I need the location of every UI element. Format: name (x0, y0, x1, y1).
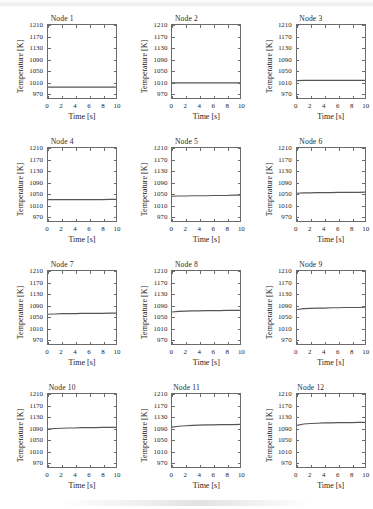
y-tick-label: 1130 (154, 167, 168, 174)
y-tick-label: 1210 (154, 144, 168, 151)
y-tick-label: 970 (157, 90, 167, 97)
x-tick-group: 0246810 (47, 346, 117, 358)
y-tick-group: 970101010501090113011701210 (140, 393, 169, 468)
panel-title: Node 9 (249, 260, 373, 269)
y-tick-label: 1090 (154, 301, 168, 308)
x-tick-label: 4 (198, 102, 201, 109)
x-tick-label: 10 (362, 102, 369, 109)
y-tick-group: 970101010501090113011701210 (140, 24, 169, 99)
y-tick-label: 1210 (29, 390, 43, 397)
temperature-series (297, 148, 365, 221)
y-tick-label: 1130 (154, 44, 168, 51)
series-path (172, 195, 240, 196)
y-tick-label: 1210 (154, 390, 168, 397)
x-tick-label: 0 (45, 348, 48, 355)
subplot-panel: Node 7Temperature [K]Time [s]97010101050… (0, 258, 124, 381)
x-axis-label: Time [s] (171, 481, 241, 490)
panel-title: Node 7 (0, 260, 124, 269)
y-tick-label: 1170 (29, 401, 43, 408)
x-tick-label: 2 (59, 102, 62, 109)
panel-title: Node 6 (249, 137, 373, 146)
y-tick-label: 1010 (154, 324, 168, 331)
y-tick-label: 1050 (29, 313, 43, 320)
subplot-panel: Node 4Temperature [K]Time [s]97010101050… (0, 135, 124, 258)
y-tick-label: 1010 (154, 201, 168, 208)
x-tick-label: 2 (308, 225, 311, 232)
y-tick-group: 970101010501090113011701210 (16, 24, 45, 99)
x-tick-label: 2 (308, 348, 311, 355)
x-tick-label: 2 (184, 102, 187, 109)
y-tick-label: 970 (281, 90, 291, 97)
x-tick-group: 0246810 (171, 100, 241, 112)
x-tick-label: 6 (212, 225, 215, 232)
x-tick-label: 8 (226, 102, 229, 109)
y-tick-label: 1050 (278, 436, 292, 443)
y-tick-label: 1010 (278, 324, 292, 331)
x-tick-label: 4 (73, 102, 76, 109)
y-tick-label: 1170 (29, 155, 43, 162)
y-tick-label: 1130 (154, 413, 168, 420)
x-tick-label: 6 (212, 471, 215, 478)
panel-title: Node 8 (124, 260, 248, 269)
x-tick-label: 6 (87, 348, 90, 355)
x-tick-label: 6 (336, 471, 339, 478)
subplot-panel: Node 1Temperature [K]Time [s]97010101050… (0, 12, 124, 135)
plot-axes (171, 270, 241, 345)
y-tick-group: 970101010501090113011701210 (16, 393, 45, 468)
temperature-series (48, 271, 116, 344)
x-tick-label: 10 (238, 348, 245, 355)
x-tick-label: 8 (350, 102, 353, 109)
x-tick-label: 2 (184, 225, 187, 232)
x-tick-label: 10 (114, 102, 121, 109)
x-tick-group: 0246810 (296, 346, 366, 358)
y-tick-group: 970101010501090113011701210 (140, 270, 169, 345)
x-tick-group: 0246810 (47, 223, 117, 235)
y-tick-group: 970101010501090113011701210 (16, 147, 45, 222)
panel-title: Node 4 (0, 137, 124, 146)
x-tick-label: 4 (322, 348, 325, 355)
x-tick-label: 2 (308, 102, 311, 109)
y-tick-label: 1210 (278, 267, 292, 274)
x-tick-label: 0 (294, 102, 297, 109)
subplot-panel: Node 12Temperature [K]Time [s]9701010105… (249, 381, 373, 504)
y-tick-label: 1090 (154, 55, 168, 62)
x-tick-label: 10 (362, 225, 369, 232)
panel-title: Node 3 (249, 14, 373, 23)
y-tick-label: 1090 (278, 424, 292, 431)
y-tick-label: 1050 (154, 190, 168, 197)
x-tick-label: 4 (322, 225, 325, 232)
x-tick-label: 10 (114, 471, 121, 478)
temperature-series (297, 394, 365, 467)
x-tick-label: 6 (212, 348, 215, 355)
x-tick-label: 4 (322, 471, 325, 478)
y-tick-label: 1130 (154, 290, 168, 297)
y-tick-label: 1170 (29, 278, 43, 285)
x-tick-label: 4 (73, 348, 76, 355)
plot-axes (296, 393, 366, 468)
x-tick-label: 6 (212, 102, 215, 109)
y-tick-label: 1130 (29, 413, 43, 420)
panel-title: Node 2 (124, 14, 248, 23)
temperature-series (297, 25, 365, 98)
panel-title: Node 10 (0, 383, 124, 392)
panel-title: Node 5 (124, 137, 248, 146)
subplot-panel: Node 8Temperature [K]Time [s]97010101050… (124, 258, 248, 381)
x-tick-label: 8 (101, 102, 104, 109)
x-tick-group: 0246810 (296, 100, 366, 112)
x-tick-label: 6 (336, 348, 339, 355)
x-tick-label: 0 (45, 225, 48, 232)
y-tick-label: 970 (33, 459, 43, 466)
x-tick-label: 8 (226, 225, 229, 232)
x-tick-label: 0 (170, 102, 173, 109)
plot-axes (171, 24, 241, 99)
y-tick-label: 1050 (154, 313, 168, 320)
y-tick-label: 1090 (278, 301, 292, 308)
x-tick-label: 8 (101, 225, 104, 232)
temperature-series (297, 271, 365, 344)
series-path (48, 313, 116, 314)
x-tick-label: 10 (238, 471, 245, 478)
x-tick-label: 0 (170, 348, 173, 355)
x-tick-label: 4 (322, 102, 325, 109)
x-tick-label: 0 (170, 471, 173, 478)
x-tick-label: 2 (308, 471, 311, 478)
